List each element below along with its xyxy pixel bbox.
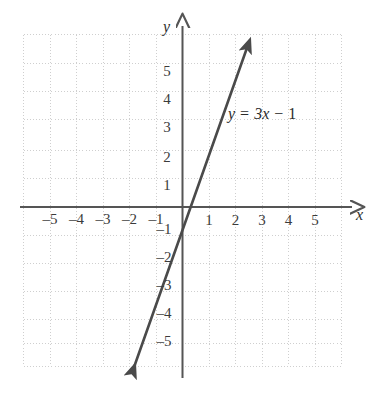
x-tick-label: 3: [253, 213, 271, 228]
equation-equals: =: [240, 105, 249, 122]
y-tick-label: –1: [152, 222, 176, 237]
y-tick-label: 4: [158, 92, 176, 107]
y-axis-label: y: [163, 19, 170, 35]
y-tick-label: 2: [158, 150, 176, 165]
x-axis-label: x: [356, 207, 363, 223]
x-tick-label: 5: [306, 213, 324, 228]
x-tick-label: 1: [200, 213, 218, 228]
x-tick-label: 4: [280, 213, 298, 228]
equation-annotation: y=3x−1: [228, 106, 296, 122]
equation-intercept: 1: [288, 105, 296, 122]
y-tick-label: 5: [158, 64, 176, 79]
y-tick-label: –3: [152, 278, 176, 293]
y-tick-label: –4: [152, 306, 176, 321]
equation-y: y: [228, 105, 235, 122]
y-tick-label: 3: [158, 120, 176, 135]
y-tick-label: –5: [152, 334, 176, 349]
y-tick-label: 1: [158, 178, 176, 193]
x-tick-label: 2: [227, 213, 245, 228]
equation-minus: −: [274, 105, 283, 122]
equation-slope-term: 3x: [254, 105, 269, 122]
x-tick-label: –3: [91, 212, 115, 227]
x-tick-label: –2: [118, 212, 142, 227]
coordinate-plane-svg: [0, 0, 388, 395]
graph-figure: y x –5 –4 –3 –2 –1 1 2 3 4 5 5 4 3 2 1 –…: [0, 0, 388, 395]
x-tick-label: –5: [38, 212, 62, 227]
y-tick-label: –2: [152, 250, 176, 265]
x-tick-label: –4: [65, 212, 89, 227]
